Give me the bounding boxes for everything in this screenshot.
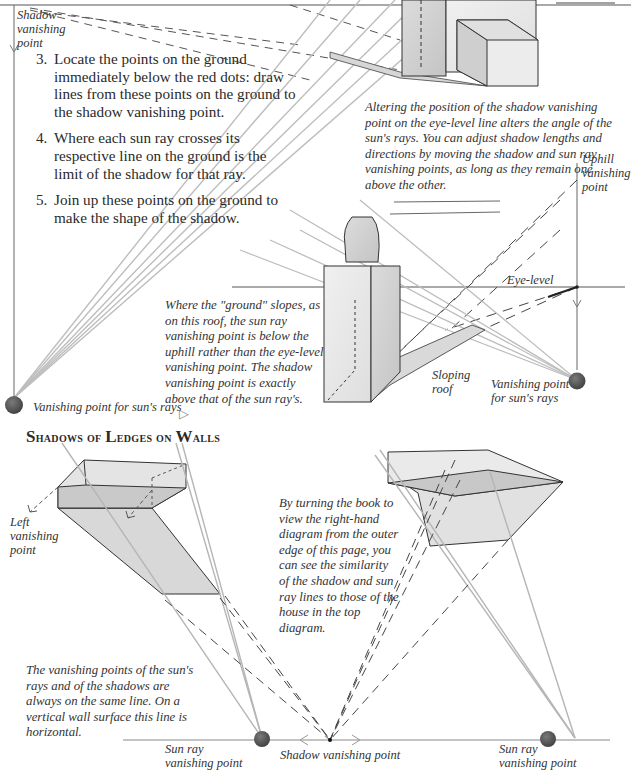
top-sun-vp-label: Vanishing point for sun's rays (33, 400, 182, 414)
left-sun-vp-dot (254, 731, 270, 747)
sun-vp-dot (5, 396, 23, 414)
left-sun-vp-label: Sun ray vanishing point (165, 742, 255, 770)
roof-caption: Where the "ground" slopes, as on this ro… (165, 298, 325, 423)
step-item: 4.Where each sun ray crosses its respect… (36, 129, 296, 182)
roof-eye-level-label: Eye-level (507, 273, 553, 287)
right-sun-vp-label: Sun ray vanishing point (499, 742, 589, 770)
left-vp-label: Left vanishing point (10, 515, 62, 557)
steps-list: 3.Locate the points on the ground immedi… (36, 50, 296, 235)
ledge-bottom-caption: The vanishing points of the sun's rays a… (26, 663, 196, 741)
ledge-right-caption: By turning the book to view the right-ha… (279, 496, 399, 636)
top-caption: Altering the position of the shadow vani… (365, 100, 615, 194)
roof-sun-vp-label: Vanishing point for sun's rays (491, 377, 576, 405)
section-heading: Shadows of Ledges on Walls (26, 427, 220, 447)
uphill-vp-label: Uphill vanishing point (582, 152, 630, 194)
sloping-roof-label: Sloping roof (432, 368, 482, 396)
shadow-vp-bottom-label: Shadow vanishing point (280, 748, 400, 762)
step-item: 5.Join up these points on the ground to … (36, 191, 296, 226)
step-item: 3.Locate the points on the ground immedi… (36, 50, 296, 120)
shadow-vp-label: Shadow vanishing point (17, 8, 67, 50)
